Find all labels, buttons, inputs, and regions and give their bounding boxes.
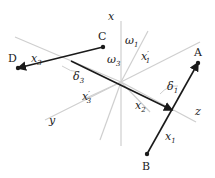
labels-group: xyzx3x2x1x′1x′3ω1ω3δ1δ3 xyxy=(31,10,201,145)
point-c xyxy=(101,45,105,49)
point-label-b: B xyxy=(142,160,150,173)
point-d xyxy=(16,66,20,70)
label-xprime3: x′3 xyxy=(82,90,92,105)
axis-label-y: y xyxy=(48,114,56,127)
label-δ1: δ1 xyxy=(167,80,178,95)
point-label-d: D xyxy=(8,52,17,65)
axis-upper-right xyxy=(121,42,200,82)
label-ω3: ω3 xyxy=(107,53,121,68)
label-xprime1: x′1 xyxy=(141,50,150,65)
axis-label-x: x xyxy=(108,10,115,23)
label-x3: x3 xyxy=(31,52,42,67)
label-x2: x2 xyxy=(135,99,146,114)
label-x1: x1 xyxy=(165,130,176,145)
point-label-c: C xyxy=(98,30,106,43)
points-group: ABCD xyxy=(8,30,203,173)
label-δ3: δ3 xyxy=(73,70,85,85)
label-ω1: ω1 xyxy=(125,34,138,49)
axis-label-z: z xyxy=(194,105,201,118)
point-label-a: A xyxy=(193,46,203,59)
point-b xyxy=(145,152,149,156)
point-a xyxy=(196,61,200,65)
rigid-body-diagram: ABCD xyzx3x2x1x′1x′3ω1ω3δ1δ3 xyxy=(0,0,215,178)
